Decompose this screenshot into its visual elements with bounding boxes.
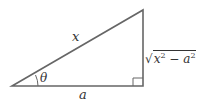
exponent-2: 2 (190, 51, 195, 60)
right-angle-marker (133, 78, 143, 86)
hypotenuse-label: x (72, 30, 79, 43)
radicand: x2 − a2 (153, 50, 197, 66)
angle-arc (36, 75, 39, 86)
adjacent-label: a (79, 88, 87, 101)
minus-operator: − (166, 52, 184, 66)
angle-label: θ (40, 72, 47, 84)
radical-sign: √ (145, 52, 153, 66)
triangle (12, 10, 143, 86)
opposite-label: √x2 − a2 (145, 50, 196, 66)
